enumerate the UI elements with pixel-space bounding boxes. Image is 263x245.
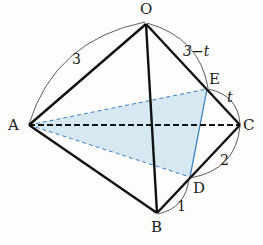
edge-label-DB: 1 [177,199,186,213]
edge-label-OA: 3 [72,52,81,66]
diagram-svg [0,0,263,245]
vertex-label-O: O [140,2,152,17]
vertex-label-E: E [209,72,220,87]
tetrahedron-diagram: O A C B E D 3 3−t t 2 1 [0,0,263,245]
edge-label-OE: 3−t [183,44,209,58]
edge-label-EC: t [227,90,233,104]
vertex-label-A: A [8,118,19,133]
vertex-label-D: D [193,181,205,196]
vertex-label-C: C [243,118,254,133]
edge-label-CD: 2 [220,153,229,167]
vertex-label-B: B [151,220,162,235]
